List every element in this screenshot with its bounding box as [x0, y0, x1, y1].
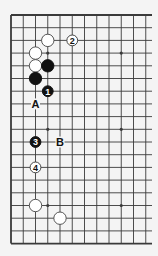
star-point-icon [120, 128, 123, 131]
star-point-icon [46, 52, 49, 55]
white-stone-icon [29, 199, 41, 211]
letter-mark-a: A [32, 98, 40, 110]
go-board-diagram: AB 1234 [0, 0, 158, 256]
move-number-label: 4 [33, 163, 38, 173]
move-number-label: 3 [33, 137, 38, 147]
move-4-white-stone: 4 [30, 162, 41, 173]
letter-mark-b: B [56, 136, 64, 148]
white-stone-icon [29, 60, 41, 72]
star-point-icon [120, 52, 123, 55]
black-stone-icon [29, 72, 41, 84]
move-2-white-stone: 2 [67, 35, 78, 46]
star-point-icon [46, 128, 49, 131]
white-stone-icon [42, 34, 54, 46]
move-1-black-stone: 1 [42, 86, 53, 97]
white-stone-icon [54, 212, 66, 224]
move-number-label: 1 [45, 87, 50, 97]
black-stone-icon [42, 60, 54, 72]
move-number-label: 2 [70, 36, 75, 46]
star-point-icon [120, 204, 123, 207]
star-point-icon [46, 204, 49, 207]
white-stone-icon [29, 47, 41, 59]
move-3-black-stone: 3 [30, 137, 41, 148]
